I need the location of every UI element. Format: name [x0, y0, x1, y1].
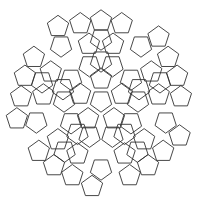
- pentagon-tile: [90, 68, 111, 88]
- pentagon-tile: [119, 164, 140, 184]
- pentagon-tile: [169, 125, 190, 145]
- pentagon-tile: [127, 142, 148, 162]
- pentagon-tile: [170, 86, 191, 106]
- pentagon-tile: [120, 70, 141, 90]
- pentagon-tile: [155, 113, 176, 133]
- pentagon-tile: [47, 129, 68, 149]
- pentagon-tile: [67, 143, 88, 163]
- penrose-tiling-diagram: [0, 0, 204, 203]
- pentagon-tile: [114, 124, 135, 144]
- pentagon-tile: [79, 57, 100, 77]
- pentagon-tile: [148, 26, 169, 46]
- pentagon-tile: [54, 142, 75, 162]
- pentagon-tile: [28, 140, 49, 160]
- pentagon-tile: [77, 108, 98, 128]
- pentagon-tile: [81, 175, 102, 195]
- pentagon-tile: [103, 108, 124, 128]
- pentagon-tile: [90, 30, 111, 50]
- pentagon-tiles: [6, 10, 191, 196]
- pentagon-tile: [50, 37, 71, 57]
- pentagon-tile: [102, 33, 123, 53]
- pentagon-tile: [90, 10, 111, 30]
- pentagon-tile: [10, 86, 31, 106]
- pentagon-tile: [133, 129, 154, 149]
- pentagon-tile: [23, 46, 44, 66]
- pentagon-tile: [102, 127, 123, 147]
- pentagon-tile: [114, 143, 135, 163]
- pentagon-tile: [67, 124, 88, 144]
- pentagon-tile: [111, 13, 132, 33]
- pentagon-tile: [26, 113, 47, 133]
- pentagon-tile: [60, 70, 81, 90]
- pentagon-tile: [79, 127, 100, 147]
- pentagon-tile: [130, 37, 151, 57]
- pentagon-tile: [120, 114, 141, 134]
- pentagon-tile: [70, 13, 91, 33]
- pentagon-tile: [90, 92, 111, 112]
- pentagon-tile: [62, 164, 83, 184]
- pentagon-tile: [60, 114, 81, 134]
- pentagon-tile: [78, 33, 99, 53]
- pentagon-tile: [47, 15, 68, 35]
- pentagon-tile: [90, 160, 111, 180]
- pentagon-tile: [90, 52, 111, 72]
- pentagon-tile: [6, 108, 27, 128]
- pentagon-tile: [153, 140, 174, 160]
- pentagon-tile: [102, 57, 123, 77]
- pentagon-tile: [157, 46, 178, 66]
